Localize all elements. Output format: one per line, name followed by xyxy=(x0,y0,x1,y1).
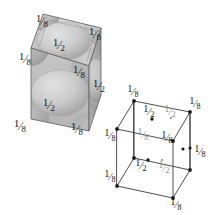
solid-corner-label-top-right: 1⁄8 xyxy=(89,27,101,42)
denominator: 8 xyxy=(144,133,148,142)
wire-corner-label-bottom-left: 1⁄8 xyxy=(105,170,116,184)
solid-corner-label-bottom-left: 1⁄8 xyxy=(14,119,26,134)
wire-corner-label-top-back-left: 1⁄8 xyxy=(128,85,139,99)
denominator: 2 xyxy=(150,110,154,119)
wire-face-label-top-right: 1⁄2 xyxy=(165,105,176,119)
denominator: 2 xyxy=(61,43,65,53)
crystal-unit-cell-figure: 1⁄8 1⁄8 1⁄8 1⁄8 1⁄8 1⁄8 1⁄2 1⁄2 1⁄2 1 xyxy=(0,0,215,215)
solid-corner-label-top-left: 1⁄8 xyxy=(19,52,31,67)
solid-corner-label-top-back-left: 1⁄8 xyxy=(36,14,48,29)
denominator: 8 xyxy=(168,136,172,145)
wire-connector-tl xyxy=(117,101,134,129)
solid-face-label-front: 1⁄2 xyxy=(43,98,55,113)
solid-corner-label-top-front-center: 1⁄8 xyxy=(73,65,85,80)
wire-connector-tr xyxy=(173,112,190,141)
denominator: 8 xyxy=(134,90,138,99)
wire-connector-bl xyxy=(117,158,134,186)
wire-corner-label-top-front-left: 1⁄8 xyxy=(105,129,116,143)
solid-face-label-right: 1⁄2 xyxy=(93,79,105,94)
denominator: 8 xyxy=(201,150,205,159)
wire-face-label-front-left: 1⁄2 xyxy=(136,159,147,173)
wire-corner-label-bottom-right: 1⁄8 xyxy=(195,145,206,159)
solid-face-label-top: 1⁄2 xyxy=(53,38,65,53)
denominator: 8 xyxy=(111,175,115,184)
wire-face-label-front-right: 1⁄2 xyxy=(159,161,170,175)
denominator: 8 xyxy=(79,127,83,137)
denominator: 8 xyxy=(22,124,26,134)
wire-corner-label-top-back-right: 1⁄8 xyxy=(190,97,201,111)
denominator: 8 xyxy=(97,32,101,42)
denominator: 2 xyxy=(51,103,55,113)
denominator: 2 xyxy=(101,84,105,94)
denominator: 8 xyxy=(44,19,48,29)
wire-corner-label-top-mid-left: 1⁄8 xyxy=(138,128,149,142)
wire-corner-label-bottom-front: 1⁄8 xyxy=(171,198,182,212)
solid-corner-label-bottom-front: 1⁄8 xyxy=(71,122,83,137)
wire-face-label-top-left: 1⁄2 xyxy=(144,105,155,119)
denominator: 2 xyxy=(165,166,169,175)
wire-corner-label-top-front-right: 1⁄8 xyxy=(162,131,173,145)
denominator: 2 xyxy=(171,110,175,119)
wire-connector-br xyxy=(173,170,190,198)
denominator: 8 xyxy=(81,70,85,80)
solid-cube-graphic xyxy=(13,0,118,149)
denominator: 8 xyxy=(196,102,200,111)
denominator: 8 xyxy=(177,203,181,212)
denominator: 8 xyxy=(111,134,115,143)
denominator: 8 xyxy=(27,57,31,67)
denominator: 2 xyxy=(142,164,146,173)
